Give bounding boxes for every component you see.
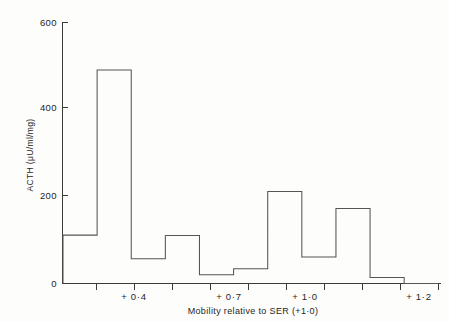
x-axis-ticks bbox=[97, 284, 439, 291]
histogram-outline bbox=[63, 70, 438, 284]
histogram-chart: 600 400 200 0 bbox=[0, 0, 449, 322]
x-axis-title: Mobility relative to SER (+1·0) bbox=[188, 306, 319, 316]
y-tick-label-200: 200 bbox=[40, 190, 57, 201]
y-tick-label-600: 600 bbox=[40, 17, 57, 28]
y-axis-title: ACTH (μU/ml/mg) bbox=[25, 119, 35, 192]
x-axis-tick-labels: + 0·4 + 0·7 + 1·0 + 1·2 bbox=[121, 291, 431, 302]
y-tick-label-400: 400 bbox=[40, 102, 57, 113]
y-tick-label-0: 0 bbox=[51, 278, 57, 289]
x-tick-label-1-0: + 1·0 bbox=[292, 291, 317, 302]
x-tick-label-0-4: + 0·4 bbox=[121, 291, 146, 302]
x-tick-label-1-2: + 1·2 bbox=[406, 291, 431, 302]
chart-figure: 600 400 200 0 bbox=[0, 0, 449, 322]
y-axis-tick-labels: 600 400 200 0 bbox=[40, 17, 57, 289]
chart-axes bbox=[63, 22, 442, 284]
x-tick-label-0-7: + 0·7 bbox=[216, 291, 241, 302]
